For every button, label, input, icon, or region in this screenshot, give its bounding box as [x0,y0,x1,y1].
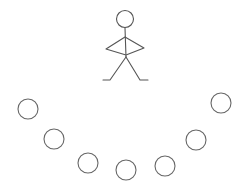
figure-head [117,11,134,28]
figure-right-leg [126,57,148,80]
circle-5 [155,156,175,176]
circle-3 [78,153,98,173]
circle-6 [186,130,206,150]
circle-7 [211,93,231,113]
figure-torso [125,28,126,57]
diagram-canvas [0,0,244,195]
circle-arc [18,93,231,180]
circle-2 [44,129,64,149]
figure-left-leg [103,57,126,80]
stick-figure [103,11,148,81]
circle-1 [18,99,38,119]
circle-4 [116,160,136,180]
